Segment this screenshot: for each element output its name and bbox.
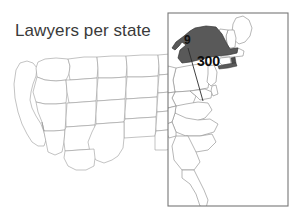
annotation-label-nine: 9 [184,34,191,46]
annotation-label-three-hundred: 300 [197,54,220,68]
lawyers-per-state-figure: Lawyers per state [0,0,295,218]
northeast-inset [0,0,295,218]
